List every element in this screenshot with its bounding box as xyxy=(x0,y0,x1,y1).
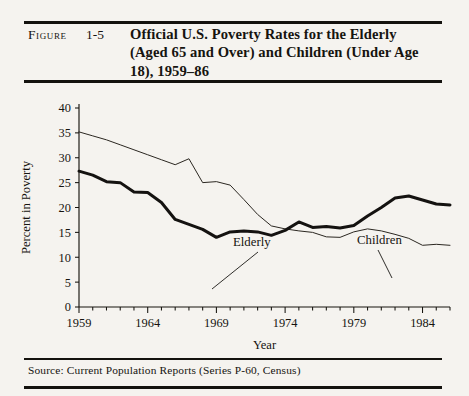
y-tick-label: 0 xyxy=(65,300,71,314)
y-tick-label: 35 xyxy=(59,126,71,140)
y-tick-label: 30 xyxy=(59,151,71,165)
y-tick-label: 40 xyxy=(59,101,71,115)
source-rule xyxy=(24,358,442,360)
x-tick-label: 1959 xyxy=(67,316,92,330)
y-axis-title: Percent in Poverty xyxy=(19,160,33,254)
figure-number: 1-5 xyxy=(86,27,104,43)
x-tick-label: 1984 xyxy=(410,316,435,330)
x-tick-label: 1974 xyxy=(273,316,298,330)
x-tick-label: 1964 xyxy=(135,316,160,330)
source-note: Source: Current Population Reports (Seri… xyxy=(28,364,301,376)
leader-line-elderly xyxy=(212,252,258,289)
chart-plot-area: 0510152025303540Percent in Poverty195919… xyxy=(0,82,469,358)
y-tick-label: 25 xyxy=(59,176,71,190)
series-label-elderly: Elderly xyxy=(233,235,271,249)
poverty-rate-line-chart: 0510152025303540Percent in Poverty195919… xyxy=(0,82,469,358)
top-rule xyxy=(24,21,442,24)
leader-line-children xyxy=(378,250,392,278)
bottom-rule xyxy=(24,386,442,389)
y-tick-label: 5 xyxy=(65,276,71,290)
y-tick-label: 10 xyxy=(59,251,71,265)
figure-card: Figure 1-5 Official U.S. Poverty Rates f… xyxy=(0,0,469,396)
series-line-elderly xyxy=(79,132,450,245)
x-tick-label: 1969 xyxy=(204,316,229,330)
figure-title: Official U.S. Poverty Rates for the Elde… xyxy=(130,25,435,80)
x-axis-title: Year xyxy=(253,338,277,352)
figure-label: Figure xyxy=(28,27,67,43)
series-label-children: Children xyxy=(357,233,402,247)
series-line-children xyxy=(79,171,450,237)
y-tick-label: 15 xyxy=(59,226,71,240)
y-tick-label: 20 xyxy=(59,201,71,215)
x-tick-label: 1979 xyxy=(341,316,366,330)
